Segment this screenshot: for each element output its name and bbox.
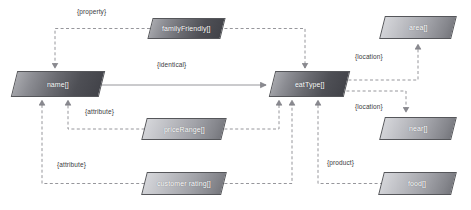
edge-label-layer: {property} {identical} {attribute} {attr… (0, 0, 471, 210)
edge-label-property: {property} (77, 8, 106, 15)
edge-label-attribute-1: {attribute} (85, 108, 114, 115)
edge-label-product: {product} (327, 159, 354, 166)
diagram-canvas: familyFriendly[] name[] eatType[] area[]… (0, 0, 471, 210)
edge-label-identical: {identical} (157, 61, 186, 68)
edge-label-attribute-2: {attribute} (57, 161, 86, 168)
edge-label-location-1: {location} (355, 53, 383, 60)
edge-label-location-2: {location} (355, 103, 383, 110)
